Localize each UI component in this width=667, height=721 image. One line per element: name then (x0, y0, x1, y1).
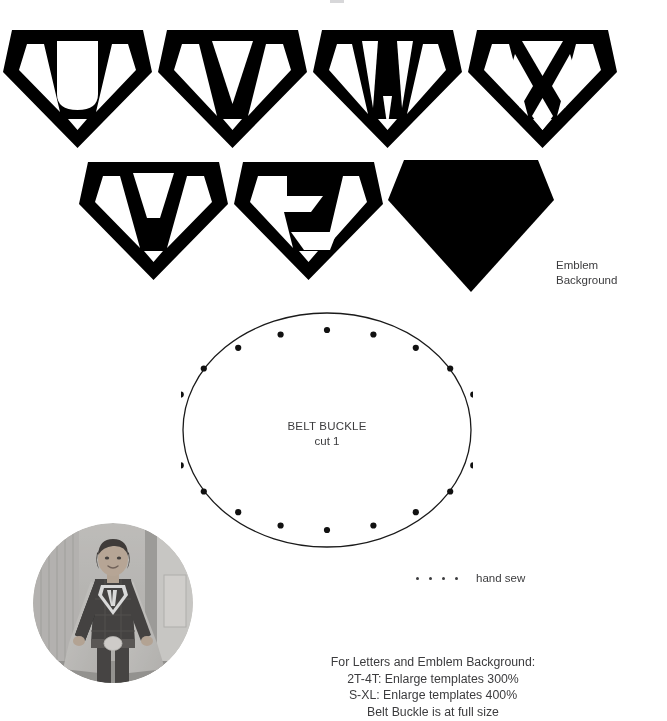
emblem-letter-y (76, 156, 231, 284)
crop-artifact (330, 0, 344, 3)
emblem-row-lower (76, 156, 636, 296)
emblem-letter-v (155, 24, 310, 152)
belt-buckle-caption: BELT BUCKLE cut 1 (181, 419, 473, 449)
sizing-instructions: For Letters and Emblem Background: 2T-4T… (218, 654, 648, 720)
belt-buckle-title: BELT BUCKLE (181, 419, 473, 434)
emblem-letter-w (310, 24, 465, 152)
emblem-letter-u (0, 24, 155, 152)
emblem-background-shape (386, 156, 558, 296)
hand-sew-label: hand sew (476, 572, 525, 584)
pattern-sheet: Emblem Background (0, 0, 667, 721)
emblem-letter-z (231, 156, 386, 284)
belt-buckle-cut-count: cut 1 (181, 434, 473, 449)
emblem-row-upper (0, 24, 667, 152)
emblem-letter-x (465, 24, 620, 152)
costume-example-photo (33, 523, 193, 683)
stitch-legend: hand sew (416, 572, 525, 584)
hand-sew-dots-icon (416, 577, 458, 580)
emblem-background-label: Emblem Background (556, 258, 666, 288)
